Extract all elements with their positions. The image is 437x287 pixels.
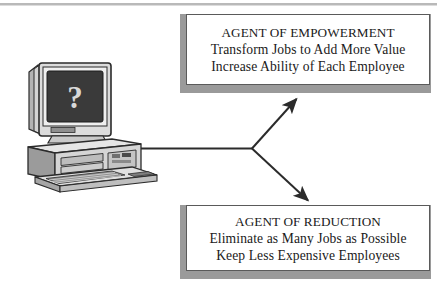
case-indicator-1: [112, 154, 120, 158]
node-empowerment-panel: AGENT OF EMPOWERMENT Transform Jobs to A…: [186, 14, 430, 85]
node-reduction-panel: AGENT OF REDUCTION Eliminate as Many Job…: [186, 205, 430, 271]
node-reduction-title: AGENT OF REDUCTION: [235, 213, 381, 230]
node-reduction-line-2: Keep Less Expensive Employees: [216, 247, 400, 264]
arrow-down-right: [252, 149, 308, 201]
node-empowerment-line-1: Transform Jobs to Add More Value: [211, 41, 406, 58]
monitor: ?: [29, 63, 111, 143]
computer-illustration: ?: [8, 55, 158, 200]
node-reduction[interactable]: AGENT OF REDUCTION Eliminate as Many Job…: [180, 205, 431, 279]
node-empowerment-line-2: Increase Ability of Each Employee: [211, 58, 405, 75]
node-empowerment-title: AGENT OF EMPOWERMENT: [221, 24, 394, 41]
diagram-canvas: ?: [0, 0, 437, 287]
arrow-up-right: [252, 99, 297, 149]
monitor-control-strip: [51, 128, 75, 133]
case-indicator-3: [112, 160, 131, 163]
screen-question-mark: ?: [67, 80, 83, 115]
node-reduction-line-1: Eliminate as Many Jobs as Possible: [209, 230, 406, 247]
case-indicator-2: [122, 153, 131, 157]
node-empowerment[interactable]: AGENT OF EMPOWERMENT Transform Jobs to A…: [180, 14, 431, 93]
